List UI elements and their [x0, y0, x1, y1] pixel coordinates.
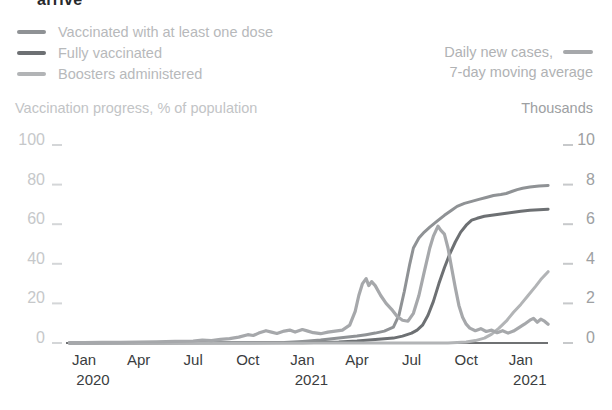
- right-axis-tick-label: 4: [569, 250, 595, 268]
- series-line: [69, 185, 548, 343]
- left-axis-tick-label: 100: [0, 131, 45, 149]
- series-line: [69, 226, 548, 342]
- x-axis-month-label: Jul: [402, 351, 421, 368]
- right-axis-tick-label: 2: [569, 289, 595, 307]
- left-axis-tick-label: 20: [0, 289, 45, 307]
- chart-plot-area: [0, 0, 612, 410]
- x-axis-year-label: 2020: [76, 371, 109, 388]
- right-axis-tick-label: 10: [569, 131, 595, 149]
- left-axis-tick-label: 80: [0, 171, 45, 189]
- left-axis-tick-label: 60: [0, 210, 45, 228]
- right-axis-tick-label: 6: [569, 210, 595, 228]
- x-axis-month-label: Apr: [127, 351, 150, 368]
- x-axis-month-label: Jul: [184, 351, 203, 368]
- x-axis-month-label: Jan: [290, 351, 314, 368]
- left-axis-tick-label: 0: [0, 329, 45, 347]
- x-axis-month-label: Oct: [236, 351, 259, 368]
- chart-card: arrive Vaccinated with at least one dose…: [0, 0, 612, 410]
- right-axis-tick-label: 0: [569, 329, 595, 347]
- x-axis-year-label: 2021: [295, 371, 328, 388]
- series-line: [69, 209, 548, 343]
- x-axis-year-label: 2021: [513, 371, 546, 388]
- right-axis-tick-label: 8: [569, 171, 595, 189]
- x-axis-month-label: Jan: [509, 351, 533, 368]
- x-axis-month-label: Oct: [455, 351, 478, 368]
- x-axis-month-label: Apr: [345, 351, 368, 368]
- x-axis-month-label: Jan: [72, 351, 96, 368]
- left-axis-tick-label: 40: [0, 250, 45, 268]
